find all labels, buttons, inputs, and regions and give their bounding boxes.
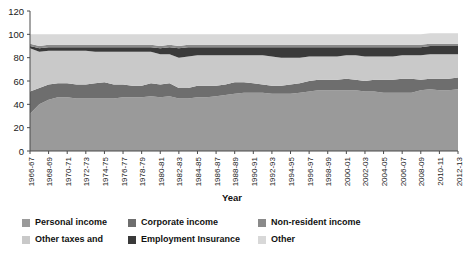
y-axis-tick-label: 60 <box>13 76 24 87</box>
legend-item-label: Non-resident income <box>271 218 361 227</box>
stacked-area-chart: 020406080100120 1966-671968-691970-71197… <box>0 0 464 200</box>
legend-item-label: Corporate income <box>141 218 218 227</box>
legend-item-other[interactable]: Other <box>258 231 295 248</box>
legend-item-label: Employment Insurance <box>141 235 240 244</box>
legend-item-personal-income[interactable]: Personal income <box>22 214 107 231</box>
x-axis-tick-label: 1996-97 <box>306 156 315 186</box>
x-axis-tick-label: 2002-03 <box>361 156 370 186</box>
legend-item-other-taxes-and[interactable]: Other taxes and <box>22 231 103 248</box>
x-axis-tick-label: 2004-05 <box>380 156 389 186</box>
legend-item-label: Other <box>271 235 295 244</box>
legend-swatch-icon <box>22 219 30 227</box>
legend-item-corporate-income[interactable]: Corporate income <box>128 214 218 231</box>
chart-page: 020406080100120 1966-671968-691970-71197… <box>0 0 464 256</box>
legend-row: Personal income Corporate income Non-res… <box>0 214 464 231</box>
x-axis-tick-label: 1976-77 <box>120 156 129 186</box>
legend-swatch-icon <box>258 236 266 244</box>
x-axis-tick-label: 2006-07 <box>399 156 408 186</box>
x-axis-tick-label: 1968-69 <box>45 156 54 186</box>
x-axis-tick-label: 1994-95 <box>287 156 296 186</box>
x-axis-tick-label: 1966-67 <box>27 156 36 186</box>
y-axis-tick-label: 40 <box>13 99 24 110</box>
legend-swatch-icon <box>258 219 266 227</box>
x-axis-tick-label: 1992-93 <box>268 156 277 186</box>
x-axis-tick-label: 1998-99 <box>324 156 333 186</box>
area-series-group <box>30 33 458 151</box>
legend-swatch-icon <box>22 236 30 244</box>
y-axis-tick-label: 80 <box>13 52 24 63</box>
area-series <box>30 33 458 46</box>
x-axis-tick-label: 2012-13 <box>455 156 464 186</box>
x-axis-tick-label: 1986-87 <box>213 156 222 186</box>
y-axis-tick-label: 20 <box>13 122 24 133</box>
y-axis-tick-labels: 020406080100120 <box>8 6 24 157</box>
x-axis-tick-label: 1990-91 <box>250 156 259 186</box>
legend-row: Other taxes and Employment Insurance Oth… <box>0 231 464 248</box>
x-axis-tick-label: 1984-85 <box>194 156 203 186</box>
legend-swatch-icon <box>128 236 136 244</box>
legend-item-label: Other taxes and <box>35 235 103 244</box>
x-axis-tick-label: 1980-81 <box>157 156 166 186</box>
x-axis-tick-label: 2010-11 <box>436 156 445 185</box>
x-axis-tick-label: 2000-01 <box>343 156 352 186</box>
y-axis-tick-label: 0 <box>19 146 24 157</box>
y-axis-tick-label: 120 <box>8 6 24 17</box>
y-axis-tick-label: 100 <box>8 29 24 40</box>
x-axis-tick-label: 2008-09 <box>417 156 426 186</box>
x-axis-tick-labels: 1966-671968-691970-711972-731974-751976-… <box>27 156 464 186</box>
legend-swatch-icon <box>128 219 136 227</box>
legend-item-non-resident-income[interactable]: Non-resident income <box>258 214 361 231</box>
x-axis-tick-label: 1972-73 <box>82 156 91 186</box>
legend-item-employment-insurance[interactable]: Employment Insurance <box>128 231 240 248</box>
x-axis-tick-label: 1978-79 <box>138 156 147 186</box>
x-axis-tick-label: 1982-83 <box>175 156 184 186</box>
x-axis-title: Year <box>0 192 464 203</box>
x-axis-tick-label: 1974-75 <box>101 156 110 186</box>
legend-item-label: Personal income <box>35 218 107 227</box>
x-axis-tick-label: 1988-89 <box>231 156 240 186</box>
chart-legend: Personal income Corporate income Non-res… <box>0 214 464 256</box>
x-axis-tick-label: 1970-71 <box>64 156 73 186</box>
chart-plot-area: 020406080100120 1966-671968-691970-71197… <box>0 0 464 200</box>
